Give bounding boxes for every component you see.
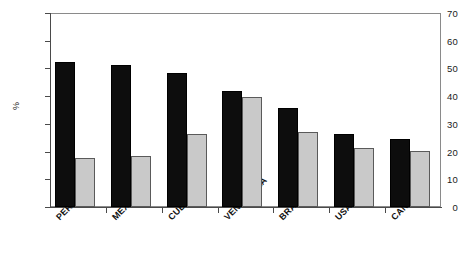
y-axis-tick-label: 30 [416, 118, 458, 129]
y-axis-tick-mark [45, 41, 50, 42]
bar-venezuela-series-2 [242, 97, 262, 207]
bar-mexico-series-2 [131, 156, 151, 207]
y-axis-tick-label: 70 [416, 8, 458, 19]
x-axis-tick-mark [162, 208, 163, 213]
y-axis-tick-mark [45, 13, 50, 14]
y-axis-line [50, 13, 51, 208]
bar-usa-series-1 [334, 134, 354, 207]
x-axis-tick-mark [273, 208, 274, 213]
y-axis-tick-mark [45, 124, 50, 125]
y-axis-tick-mark [45, 152, 50, 153]
y-axis-tick-mark [45, 68, 50, 69]
x-axis-tick-mark [106, 208, 107, 213]
y-axis-tick-mark [45, 96, 50, 97]
y-axis-tick-label: 60 [416, 35, 458, 46]
y-axis-tick-mark [45, 207, 50, 208]
bar-canada-series-2 [410, 151, 430, 207]
x-axis-tick-mark [385, 208, 386, 213]
x-axis-tick-mark [218, 208, 219, 213]
y-axis-tick-label: 40 [416, 91, 458, 102]
bar-peru-series-2 [75, 158, 95, 207]
bar-chart: % 010203040506070 PERUMEXICOCUBAVENEZUEL… [0, 0, 458, 265]
bar-usa-series-2 [354, 148, 374, 207]
bar-brazil-series-1 [278, 108, 298, 207]
bar-mexico-series-1 [111, 65, 131, 207]
y-axis-tick-label: 50 [416, 63, 458, 74]
x-axis-line [50, 207, 442, 208]
bar-venezuela-series-1 [222, 91, 242, 207]
bar-cuba-series-2 [187, 134, 207, 207]
x-axis-tick-mark [329, 208, 330, 213]
bar-cuba-series-1 [167, 73, 187, 207]
y-axis-title: % [11, 102, 21, 110]
y-axis-tick-mark [45, 179, 50, 180]
bar-peru-series-1 [55, 62, 75, 207]
bar-brazil-series-2 [298, 132, 318, 207]
bar-canada-series-1 [390, 139, 410, 207]
